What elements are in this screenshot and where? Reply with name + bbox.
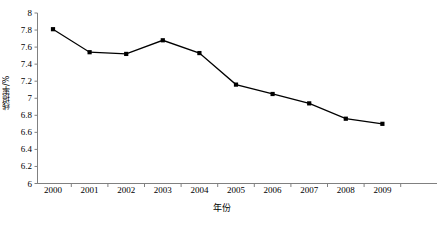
x-axis-tick-label: 2009 — [373, 186, 391, 195]
x-axis-tick-label: 2001 — [81, 186, 99, 195]
x-axis-tick-label: 2004 — [190, 186, 208, 195]
line-chart: 线损率/% 87.87.67.47.276.86.66.46.26 200020… — [0, 0, 444, 226]
x-axis-tick-label: 2006 — [264, 186, 282, 195]
x-axis-tick-label: 2008 — [337, 186, 355, 195]
x-axis-tick-label: 2003 — [154, 186, 172, 195]
x-axis-tick-label: 2005 — [227, 186, 245, 195]
x-axis-tick-labels: 2000200120022003200420052006200720082009 — [0, 0, 444, 226]
x-axis-tick-label: 2000 — [44, 186, 62, 195]
x-axis-tick-label: 2007 — [300, 186, 318, 195]
x-axis-tick-label: 2002 — [117, 186, 135, 195]
x-axis-title: 年份 — [0, 203, 444, 213]
